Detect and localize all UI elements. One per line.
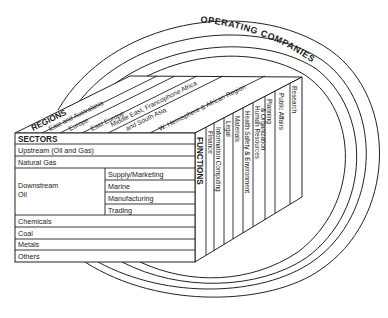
sector-downstream-oil: Oil: [18, 190, 27, 199]
function-planning: Planning: [265, 99, 273, 124]
sub-sector-trading: Trading: [108, 206, 132, 215]
function-legal: Legal: [224, 121, 232, 137]
sub-sector-manufacturing: Manufacturing: [108, 194, 154, 203]
function-information-computing: Information Computing: [214, 127, 222, 192]
function-organization: & Organization: [259, 108, 267, 151]
sub-sector-supply-marketing: Supply/Marketing: [108, 170, 164, 179]
function-public-affairs: Public Affairs: [278, 93, 285, 130]
sector-metals: Metals: [18, 240, 40, 249]
function-finance: Finance: [207, 131, 214, 154]
function-human-resources: Human Resources: [254, 106, 261, 159]
sub-sector-marine: Marine: [108, 182, 130, 191]
function-health-safety-environment: Health Safety & Environment: [243, 111, 251, 193]
sector-upstream: Upstream (Oil and Gas): [18, 146, 94, 155]
sectors-header: SECTORS: [18, 135, 58, 144]
function-research: Research: [291, 86, 298, 114]
functions-header: FUNCTIONS: [195, 137, 204, 185]
sector-downstream: Downstream: [18, 181, 58, 190]
sector-coal: Coal: [18, 229, 33, 238]
sector-others: Others: [18, 252, 40, 261]
operating-companies-diagram: OPERATING COMPANIES REGIONS East and Aus…: [0, 0, 388, 318]
sector-natural-gas: Natural Gas: [18, 158, 57, 167]
function-materials: Materials: [234, 116, 241, 142]
sector-chemicals: Chemicals: [18, 217, 52, 226]
